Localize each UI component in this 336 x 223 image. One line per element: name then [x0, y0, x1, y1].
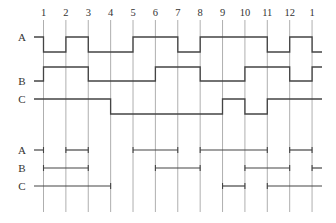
- clock-tick-label: 4: [108, 7, 114, 18]
- clock-tick-label: 11: [262, 7, 272, 18]
- interval-bar-label-a: A: [18, 144, 26, 156]
- waveforms: ABC: [18, 31, 322, 114]
- interval-bars: ABC: [18, 144, 322, 192]
- clock-tick-label: 1: [309, 7, 314, 18]
- clock-tick-label: 8: [198, 7, 203, 18]
- clock-tick-label: 1: [41, 7, 46, 18]
- timing-diagram: 1234567891011121 ABC ABC: [0, 0, 336, 223]
- clock-tick-label: 3: [86, 7, 91, 18]
- waveform-label-a: A: [18, 31, 26, 43]
- clock-tick-label: 5: [130, 7, 135, 18]
- waveform-label-b: B: [18, 75, 25, 87]
- clock-tick-label: 7: [175, 7, 180, 18]
- clock-tick-labels: 1234567891011121: [41, 7, 315, 18]
- clock-tick-label: 10: [240, 7, 251, 18]
- interval-bar-label-b: B: [18, 162, 25, 174]
- interval-bar-label-c: C: [18, 180, 25, 192]
- waveform-label-c: C: [18, 93, 25, 105]
- clock-tick-label: 6: [153, 7, 158, 18]
- waveform-a: [34, 37, 322, 52]
- clock-tick-label: 12: [284, 7, 295, 18]
- clock-tick-label: 9: [220, 7, 225, 18]
- clock-tick-label: 2: [63, 7, 68, 18]
